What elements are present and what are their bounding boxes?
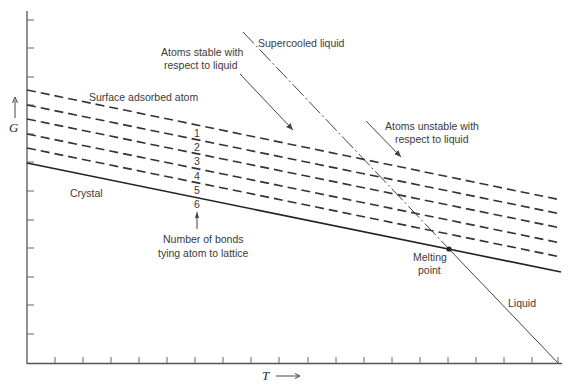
stable-label-line2: respect to liquid <box>164 59 238 71</box>
bond-line-2 <box>27 105 561 214</box>
unstable-label-line1: Atoms unstable with <box>385 120 479 132</box>
bond-number-3: 3 <box>194 155 200 167</box>
x-axis-label: T <box>262 368 300 383</box>
bond-line-4 <box>27 134 561 243</box>
surface-adsorbed-label: Surface adsorbed atom <box>89 91 198 103</box>
gibbs-energy-diagram: G T Surface adsorbed atom Crystal Superc… <box>0 0 580 387</box>
bonds-label-line2: tying atom to lattice <box>158 247 249 259</box>
bond-number-6: 6 <box>194 198 200 210</box>
bond-line-5 <box>27 148 561 257</box>
bond-number-1: 1 <box>194 127 200 139</box>
bond-number-2: 2 <box>194 141 200 153</box>
melting-label-line2: point <box>418 264 441 276</box>
melting-point-dot <box>446 246 451 251</box>
x-label: T <box>262 368 270 383</box>
stable-label-line1: Atoms stable with <box>161 46 243 58</box>
liquid-line <box>449 249 558 363</box>
bond-line-1 <box>27 90 561 200</box>
supercooled-label: Supercooled liquid <box>258 37 345 49</box>
y-ticks <box>27 20 34 334</box>
x-ticks <box>55 357 558 363</box>
bond-line-3 <box>27 119 561 228</box>
crystal-line <box>27 163 561 272</box>
bond-number-5: 5 <box>194 184 200 196</box>
melting-label-line1: Melting <box>413 251 447 263</box>
bond-lines <box>27 90 561 257</box>
y-label: G <box>9 120 19 135</box>
bonds-arrowhead-icon <box>195 211 199 218</box>
liquid-label: Liquid <box>508 297 536 309</box>
y-axis-label: G <box>9 97 19 135</box>
unstable-label-line2: respect to liquid <box>395 133 469 145</box>
bond-number-4: 4 <box>194 170 200 182</box>
bonds-label-line1: Number of bonds <box>163 233 244 245</box>
stable-arrow-icon <box>240 74 293 130</box>
crystal-label: Crystal <box>70 187 103 199</box>
axes <box>27 11 562 364</box>
